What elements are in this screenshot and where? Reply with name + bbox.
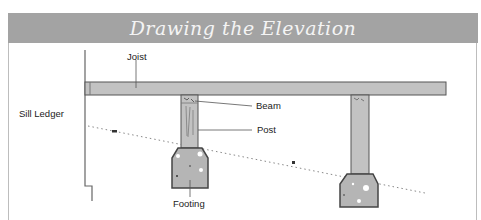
post-right <box>351 95 369 174</box>
footing-right <box>340 174 378 207</box>
label-joist: Joist <box>127 51 147 62</box>
label-beam: Beam <box>256 100 281 111</box>
elevation-drawing <box>0 0 481 220</box>
post-left <box>181 95 198 148</box>
label-footing: Footing <box>173 198 205 209</box>
label-post: Post <box>257 124 276 135</box>
joist <box>85 82 446 95</box>
label-sill-ledger: Sill Ledger <box>19 108 64 119</box>
house-wall-line <box>85 50 92 201</box>
